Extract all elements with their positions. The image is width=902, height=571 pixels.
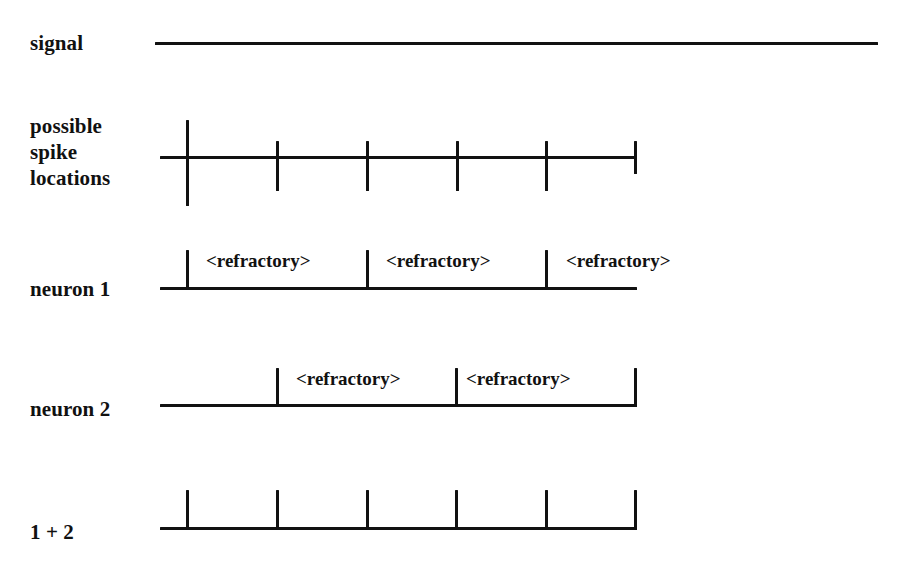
row-label-possible-spike-locations-line1: possible (30, 113, 102, 139)
sum-spike-3 (366, 490, 369, 528)
neuron-2-spike-2 (455, 368, 458, 405)
neuron-2-refractory-label-2: <refractory> (466, 368, 571, 390)
neuron-1-spike-3 (545, 250, 548, 288)
neuron-1-refractory-label-3: <refractory> (566, 250, 671, 272)
sum-spike-2 (276, 490, 279, 528)
possible-spike-tick-2 (276, 141, 279, 191)
signal-trace-line (155, 42, 878, 45)
possible-spike-tick-3 (366, 141, 369, 191)
row-label-possible-spike-locations-line3: locations (30, 165, 110, 191)
row-label-neuron-1: neuron 1 (30, 276, 110, 302)
neuron-1-refractory-label-1: <refractory> (206, 250, 311, 272)
sum-baseline (160, 527, 637, 530)
neuron-2-end-marker (634, 368, 637, 405)
neuron-1-refractory-label-2: <refractory> (386, 250, 491, 272)
spike-timing-figure: signal possible spike locations neuron 1… (0, 0, 902, 571)
possible-spike-tick-6 (634, 141, 637, 174)
row-label-possible-spike-locations-line2: spike (30, 139, 77, 165)
possible-spike-locations-baseline (160, 156, 637, 159)
sum-spike-1 (186, 490, 189, 528)
neuron-1-spike-1 (186, 250, 189, 288)
sum-spike-4 (455, 490, 458, 528)
row-label-neuron-2: neuron 2 (30, 396, 110, 422)
neuron-2-refractory-label-1: <refractory> (296, 368, 401, 390)
row-label-sum-1-plus-2: 1 + 2 (30, 519, 74, 545)
possible-spike-tick-4 (456, 141, 459, 191)
neuron-1-spike-2 (366, 250, 369, 288)
possible-spike-tick-5 (545, 141, 548, 191)
neuron-2-baseline (160, 404, 637, 407)
neuron-2-spike-1 (276, 368, 279, 405)
neuron-1-baseline (160, 287, 637, 290)
row-label-signal: signal (30, 30, 83, 56)
sum-spike-6 (634, 490, 637, 528)
sum-spike-5 (545, 490, 548, 528)
possible-spike-tick-1 (186, 120, 189, 206)
